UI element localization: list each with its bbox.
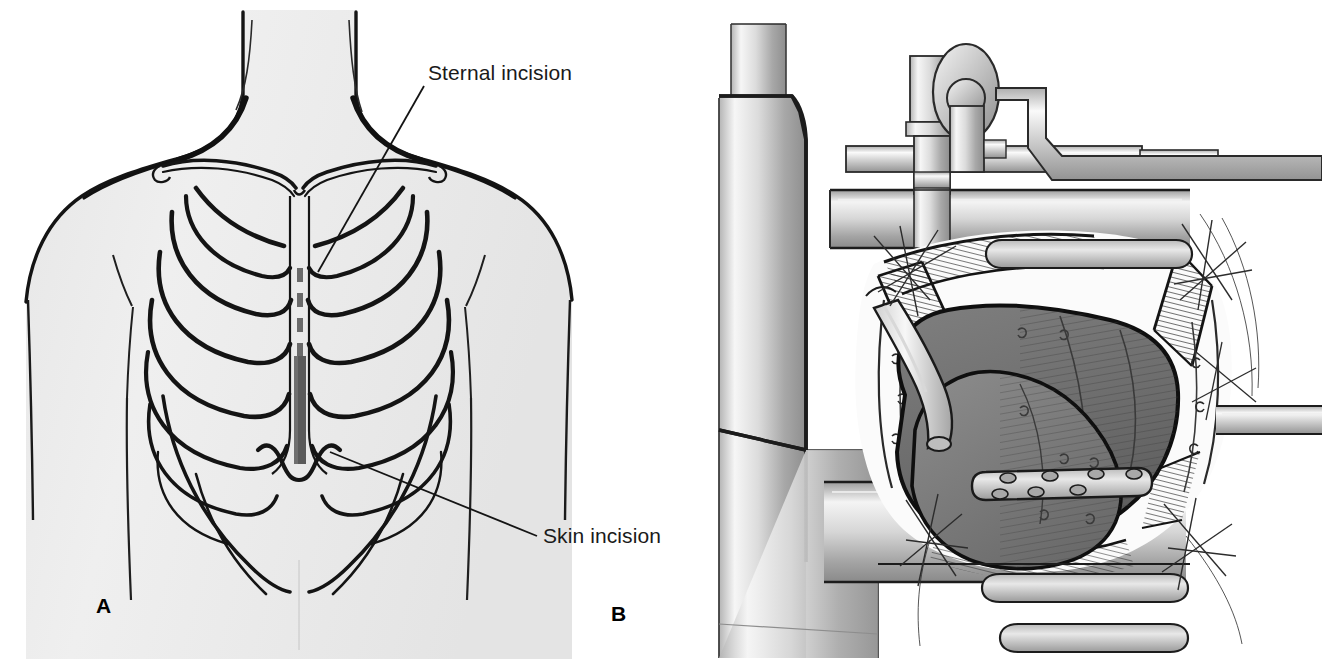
panel-a-letter: A bbox=[96, 594, 111, 617]
upper-retractor-blade bbox=[986, 240, 1192, 268]
right-side-rod bbox=[1216, 406, 1322, 434]
sternal-incision-label: Sternal incision bbox=[428, 61, 572, 84]
perforated-drain-tube bbox=[972, 468, 1152, 500]
illustration-canvas: Sternal incision Skin incision A bbox=[0, 0, 1322, 659]
panel-b-letter: B bbox=[611, 602, 626, 625]
figure-root: Sternal incision Skin incision A bbox=[0, 0, 1322, 659]
skin-incision-label: Skin incision bbox=[543, 524, 661, 547]
